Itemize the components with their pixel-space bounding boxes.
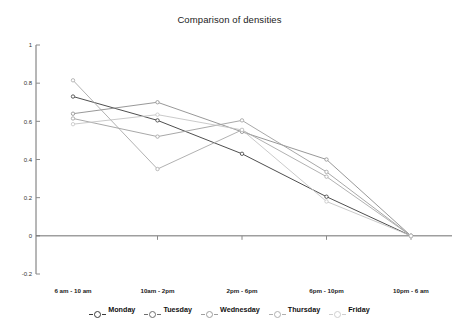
legend-item-wednesday[interactable]: Wednesday xyxy=(201,305,260,314)
legend-item-label: Thursday xyxy=(288,305,320,314)
data-point-marker xyxy=(156,119,159,122)
data-point-marker xyxy=(325,158,328,161)
data-point-marker xyxy=(325,170,328,173)
legend-item-label: Wednesday xyxy=(220,305,260,314)
data-point-marker xyxy=(325,195,328,198)
data-point-marker xyxy=(156,101,159,104)
y-tick-label: 0.6 xyxy=(24,119,33,125)
data-point-marker xyxy=(156,113,159,116)
data-point-marker xyxy=(409,234,412,237)
data-point-marker xyxy=(71,79,74,82)
legend-item-label: Monday xyxy=(108,305,135,314)
data-point-marker xyxy=(240,152,243,155)
y-tick-label: 0 xyxy=(29,233,33,239)
y-tick-label: 1 xyxy=(29,42,33,48)
legend-item-monday[interactable]: Monday xyxy=(89,305,135,314)
data-point-marker xyxy=(325,175,328,178)
data-point-marker xyxy=(71,112,74,115)
legend-marker-circle-icon xyxy=(329,305,346,314)
legend-item-thursday[interactable]: Thursday xyxy=(269,305,320,314)
series-line-wednesday xyxy=(73,118,411,235)
y-tick-label: -0.2 xyxy=(22,271,33,277)
legend-marker-circle-icon xyxy=(201,305,218,314)
x-tick-label: 10am - 2pm xyxy=(140,287,175,294)
x-tick-label: 6 am - 10 am xyxy=(54,287,92,294)
legend-marker-circle-icon xyxy=(269,305,286,314)
x-tick-label: 2pm - 6pm xyxy=(227,287,258,294)
data-series-group xyxy=(71,79,412,238)
legend-marker-circle-icon xyxy=(89,305,106,314)
data-point-marker xyxy=(71,122,74,125)
data-point-marker xyxy=(156,167,159,170)
y-tick-label: 0.8 xyxy=(24,80,33,86)
data-point-marker xyxy=(156,135,159,138)
legend-marker-circle-icon xyxy=(144,305,161,314)
x-tick-label: 6pm - 10pm xyxy=(309,287,344,294)
data-point-marker xyxy=(240,128,243,131)
chart-legend: MondayTuesdayWednesdayThursdayFriday xyxy=(0,305,459,314)
x-axis: 6 am - 10 am10am - 2pm2pm - 6pm6pm - 10p… xyxy=(36,236,452,294)
legend-item-tuesday[interactable]: Tuesday xyxy=(144,305,192,314)
legend-item-label: Tuesday xyxy=(163,305,192,314)
y-axis: 10.80.60.40.20-0.2 xyxy=(22,42,40,277)
y-tick-label: 0.2 xyxy=(24,195,33,201)
data-point-marker xyxy=(71,117,74,120)
legend-item-label: Friday xyxy=(348,305,370,314)
data-point-marker xyxy=(71,95,74,98)
x-tick-label: 10pm - 6 am xyxy=(393,287,429,294)
legend-item-friday[interactable]: Friday xyxy=(329,305,370,314)
data-point-marker xyxy=(240,119,243,122)
y-tick-label: 0.4 xyxy=(24,157,33,163)
chart-container: Comparison of densities 10.80.60.40.20-0… xyxy=(0,0,459,331)
data-point-marker xyxy=(325,200,328,203)
line-chart-plot: 10.80.60.40.20-0.2 6 am - 10 am10am - 2p… xyxy=(0,0,459,331)
